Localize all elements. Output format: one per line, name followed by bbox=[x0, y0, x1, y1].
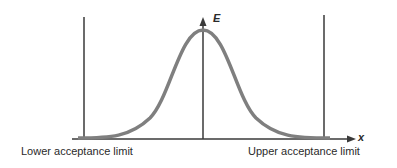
x-axis-arrow-icon bbox=[347, 136, 356, 143]
gaussian-curve bbox=[78, 30, 330, 138]
y-axis-arrow-icon bbox=[200, 17, 207, 26]
diagram: E x Lower acceptance limit Upper accepta… bbox=[0, 0, 397, 168]
x-axis-label: x bbox=[358, 131, 364, 143]
y-axis-label: E bbox=[213, 12, 220, 24]
lower-limit-label: Lower acceptance limit bbox=[21, 145, 133, 157]
upper-limit-label: Upper acceptance limit bbox=[248, 145, 360, 157]
distribution-plot bbox=[0, 0, 397, 168]
